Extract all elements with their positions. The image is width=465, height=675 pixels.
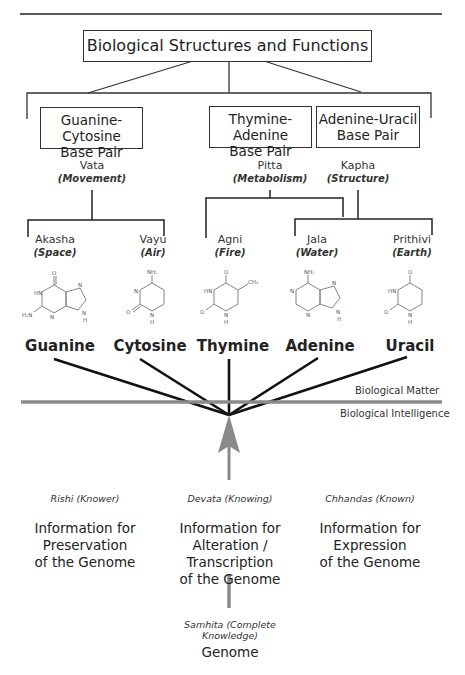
svg-text:N: N xyxy=(50,314,54,320)
info-preservation: Information forPreservationof the Genome xyxy=(25,520,145,571)
info-alteration: Information forAlteration / Transcriptio… xyxy=(150,520,310,588)
base-pair-box-au: Adenine-Uracil Base Pair xyxy=(316,106,420,148)
svg-text:H: H xyxy=(408,319,412,325)
element-jala: Jala(Water) xyxy=(282,233,352,259)
svg-text:N: N xyxy=(408,312,412,318)
dosha-kapha: Kapha(Structure) xyxy=(318,159,398,185)
svg-text:HN: HN xyxy=(388,288,396,294)
aspect-rishi: Rishi (Knower) xyxy=(40,493,130,504)
base-cytosine: Cytosine xyxy=(110,337,190,355)
svg-text:HN: HN xyxy=(34,290,42,296)
base-pair-box-ta: Thymine-Adenine Base Pair xyxy=(209,106,312,148)
svg-text:N: N xyxy=(332,280,336,286)
element-prithivi: Prithivi(Earth) xyxy=(377,233,447,259)
svg-text:H: H xyxy=(150,319,154,325)
svg-text:N: N xyxy=(150,312,154,318)
svg-text:O: O xyxy=(200,309,205,315)
dosha-vata: Vata(Movement) xyxy=(52,159,132,185)
base-pair-box-gc: Guanine-Cytosine Base Pair xyxy=(40,107,143,149)
svg-text:O: O xyxy=(224,269,229,275)
aspect-devata: Devata (Knowing) xyxy=(180,493,280,504)
svg-text:N: N xyxy=(224,312,228,318)
element-akasha: Akasha(Space) xyxy=(20,233,90,259)
adenine-structure-icon: NH₂NN NNH xyxy=(280,268,350,328)
base-thymine: Thymine xyxy=(193,337,273,355)
dosha-pitta: Pitta(Metabolism) xyxy=(230,159,310,185)
cytosine-structure-icon: NH₂NO NH xyxy=(120,268,180,328)
samhita-label: Samhita (Complete Knowledge) xyxy=(160,619,300,641)
svg-text:O: O xyxy=(384,309,389,315)
base-guanine: Guanine xyxy=(20,337,100,355)
svg-text:O: O xyxy=(408,269,413,275)
base-adenine: Adenine xyxy=(280,337,360,355)
svg-text:N: N xyxy=(336,309,340,315)
label-biological-intelligence: Biological Intelligence xyxy=(340,408,450,419)
base-pair-label: Guanine-Cytosine xyxy=(41,112,142,144)
svg-text:HN: HN xyxy=(204,288,212,294)
uracil-structure-icon: OHNO NH xyxy=(380,268,440,328)
svg-text:N: N xyxy=(290,288,294,294)
title-box: Biological Structures and Functions xyxy=(83,30,372,62)
svg-text:N: N xyxy=(306,312,310,318)
info-expression: Information forExpressionof the Genome xyxy=(310,520,430,571)
svg-text:NH₂: NH₂ xyxy=(304,269,314,275)
element-agni: Agni(Fire) xyxy=(195,233,265,259)
genome-label: Genome xyxy=(180,644,280,660)
label-biological-matter: Biological Matter xyxy=(355,385,439,396)
element-vayu: Vayu(Air) xyxy=(118,233,188,259)
guanine-structure-icon: OHNN NNHH₂N xyxy=(20,268,100,328)
svg-text:O: O xyxy=(52,270,57,276)
svg-text:N: N xyxy=(82,310,86,316)
svg-text:N: N xyxy=(78,282,82,288)
base-uracil: Uracil xyxy=(370,337,450,355)
base-pair-sublabel: Base Pair xyxy=(210,143,311,159)
thymine-structure-icon: OHNCH₃ ONH xyxy=(196,268,266,328)
diagram-title: Biological Structures and Functions xyxy=(87,36,369,55)
base-pair-label: Adenine-Uracil xyxy=(317,111,419,127)
svg-text:N: N xyxy=(134,288,138,294)
svg-text:H₂N: H₂N xyxy=(22,312,32,318)
base-pair-sublabel: Base Pair xyxy=(41,144,142,160)
svg-text:H: H xyxy=(224,319,228,325)
svg-text:CH₃: CH₃ xyxy=(248,279,258,285)
base-pair-label: Thymine-Adenine xyxy=(210,111,311,143)
svg-text:O: O xyxy=(126,309,131,315)
base-pair-sublabel: Base Pair xyxy=(317,127,419,143)
aspect-chhandas: Chhandas (Known) xyxy=(320,493,420,504)
svg-text:H: H xyxy=(83,317,87,323)
svg-text:NH₂: NH₂ xyxy=(147,269,157,275)
svg-text:H: H xyxy=(337,316,341,322)
